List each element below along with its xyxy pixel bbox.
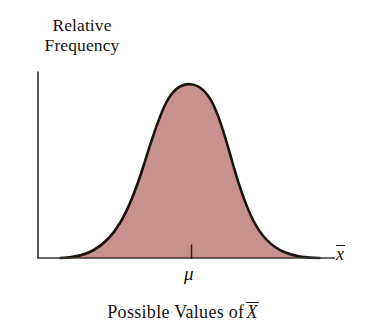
- x-axis-variable-label: x: [336, 244, 344, 263]
- mean-symbol-label: μ: [0, 264, 365, 283]
- mu-glyph: μ: [184, 263, 194, 284]
- distribution-fill: [61, 84, 320, 258]
- x-bar-glyph: x: [336, 244, 344, 263]
- caption-text: Possible Values of: [107, 302, 244, 322]
- caption-x-bar-glyph: X: [246, 301, 257, 323]
- figure-container: Relative Frequency μ x Possible Values o…: [0, 0, 365, 329]
- figure-caption: Possible Values ofX: [0, 301, 365, 323]
